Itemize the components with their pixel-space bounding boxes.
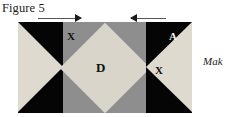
light-triangle-left <box>18 22 63 112</box>
arrow-left-head <box>130 14 137 22</box>
diagram-panel-left <box>18 22 63 113</box>
figure-title: Figure 5 <box>2 1 45 15</box>
side-body-text: Mak <box>203 55 223 68</box>
label-d-center: D <box>96 61 105 74</box>
arrow-right-head <box>75 14 82 22</box>
quilt-block-diagram: X D X A <box>18 22 192 113</box>
label-a-top-right: A <box>169 31 177 42</box>
label-x-right: X <box>155 65 163 76</box>
label-x-top-left: X <box>67 31 75 42</box>
